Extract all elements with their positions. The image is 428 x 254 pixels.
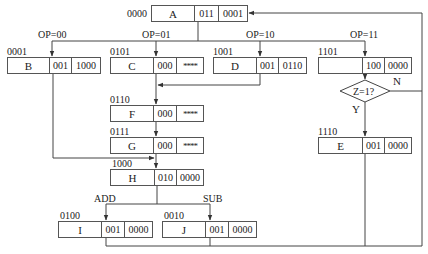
node-c-field1: 000 — [153, 58, 176, 73]
node-f-field2: **** — [176, 106, 203, 121]
node-i: I 001 0000 — [58, 221, 153, 238]
node-i-field1: 001 — [101, 222, 124, 237]
decision-yes-label: Y — [352, 104, 360, 115]
addr-label-a: 0000 — [127, 8, 147, 19]
addr-label-i: 0100 — [60, 210, 80, 221]
node-c: C 000 **** — [110, 57, 204, 74]
node-f-field1: 000 — [153, 106, 176, 121]
addr-label-j: 0010 — [164, 210, 184, 221]
node-i-field2: 0000 — [124, 222, 152, 237]
node-g-name: G — [111, 138, 153, 153]
node-j-field2: 0000 — [228, 222, 256, 237]
node-a-field2: 0001 — [218, 6, 247, 21]
node-j: J 001 0000 — [162, 221, 257, 238]
node-g: G 000 **** — [110, 137, 204, 154]
node-c-name: C — [111, 58, 153, 73]
node-d-field2: 0110 — [278, 58, 306, 73]
node-d-field1: 001 — [256, 58, 278, 73]
addr-label-e: 1110 — [318, 126, 337, 137]
branch-label-op11: OP=11 — [350, 29, 378, 40]
node-1101-name — [319, 58, 362, 73]
node-d: D 001 0110 — [213, 57, 307, 74]
node-a-field1: 011 — [194, 6, 218, 21]
branch-label-op10: OP=10 — [246, 29, 274, 40]
node-a-name: A — [152, 6, 194, 21]
branch-label-add: ADD — [94, 193, 116, 204]
node-e-name: E — [319, 138, 362, 153]
branch-label-op00: OP=00 — [38, 29, 66, 40]
node-f-name: F — [111, 106, 153, 121]
addr-label-h: 1000 — [112, 158, 132, 169]
node-b-field2: 1000 — [71, 58, 100, 73]
node-1101-field2: 0000 — [384, 58, 411, 73]
addr-label-g: 0111 — [110, 126, 129, 137]
node-1101: 100 0000 — [318, 57, 412, 74]
node-g-field2: **** — [176, 138, 203, 153]
node-e-field2: 0000 — [384, 138, 411, 153]
node-e-field1: 001 — [362, 138, 384, 153]
addr-label-d: 1001 — [213, 46, 233, 57]
addr-label-1101: 1101 — [318, 46, 338, 57]
node-h-field1: 010 — [154, 170, 176, 185]
node-j-field1: 001 — [205, 222, 228, 237]
addr-label-b: 0001 — [7, 46, 27, 57]
node-b-name: B — [8, 58, 49, 73]
node-d-name: D — [214, 58, 256, 73]
node-i-name: I — [59, 222, 101, 237]
node-h-name: H — [111, 170, 154, 185]
node-1101-field1: 100 — [362, 58, 384, 73]
node-c-field2: **** — [176, 58, 203, 73]
node-j-name: J — [163, 222, 205, 237]
decision-text: Z=1? — [353, 86, 374, 97]
node-a: A 011 0001 — [151, 5, 248, 22]
branch-label-op01: OP=01 — [142, 29, 170, 40]
node-e: E 001 0000 — [318, 137, 412, 154]
node-h: H 010 0000 — [110, 169, 204, 186]
addr-label-f: 0110 — [110, 94, 130, 105]
node-h-field2: 0000 — [176, 170, 203, 185]
branch-label-sub: SUB — [203, 193, 222, 204]
node-b-field1: 001 — [49, 58, 71, 73]
decision-no-label: N — [393, 76, 401, 87]
node-b: B 001 1000 — [7, 57, 101, 74]
addr-label-c: 0101 — [110, 46, 130, 57]
node-f: F 000 **** — [110, 105, 204, 122]
node-g-field1: 000 — [153, 138, 176, 153]
